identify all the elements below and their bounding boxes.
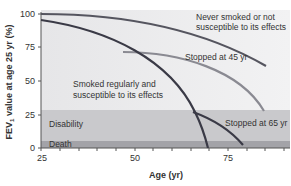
- fev1-chart: 100 75 50 25 0 25 50 75 Age (yr) FEV1 va…: [0, 0, 291, 186]
- x-tick-25: 25: [37, 153, 47, 163]
- x-tick-75: 75: [223, 153, 233, 163]
- y-tick-100: 100: [20, 9, 35, 19]
- y-axis-title: FEV1 value at age 25 yr (%): [4, 25, 15, 140]
- x-tick-50: 50: [130, 153, 140, 163]
- y-tick-50: 50: [25, 76, 35, 86]
- label-smoked: Smoked regularly andsusceptible to its e…: [73, 79, 163, 100]
- x-axis-title: Age (yr): [149, 170, 183, 180]
- label-never-smoked: Never smoked or notsusceptible to its ef…: [196, 12, 286, 32]
- label-disability: Disability: [49, 119, 84, 129]
- death-band: [41, 141, 290, 148]
- y-tick-25: 25: [25, 110, 35, 120]
- y-tick-0: 0: [30, 143, 35, 153]
- label-death: Death: [49, 139, 72, 149]
- label-stopped-65: Stopped at 65 yr: [225, 118, 288, 128]
- y-tick-75: 75: [25, 42, 35, 52]
- label-stopped-45: Stopped at 45 yr: [185, 52, 248, 62]
